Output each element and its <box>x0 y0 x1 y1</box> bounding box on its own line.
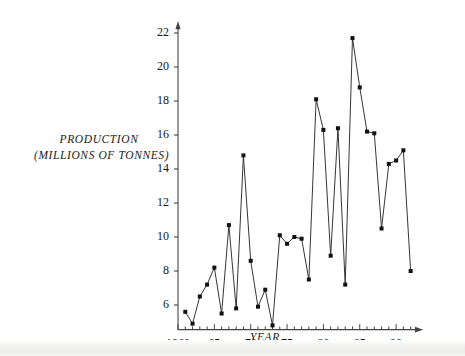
data-point-marker <box>394 159 398 163</box>
data-point-marker <box>314 97 318 101</box>
data-point-marker <box>350 36 354 40</box>
chart-figure: PRODUCTION (MILLIONS OF TONNES) YEAR 681… <box>0 0 465 356</box>
y-axis-arrow-icon <box>175 21 180 29</box>
y-axis-tick-label: 22 <box>144 25 169 40</box>
data-point-marker <box>271 323 275 327</box>
x-axis-tick-label: 90 <box>374 336 418 351</box>
data-point-marker <box>358 85 362 89</box>
data-point-marker <box>212 266 216 270</box>
data-point-marker <box>409 269 413 273</box>
data-point-marker <box>241 153 245 157</box>
y-axis-tick-label: 12 <box>144 195 169 210</box>
data-point-marker <box>300 237 304 241</box>
y-axis-tick-label: 10 <box>144 229 169 244</box>
data-point-marker <box>365 130 369 134</box>
y-axis-tick-label: 20 <box>144 59 169 74</box>
data-point-marker <box>278 233 282 237</box>
data-point-marker <box>401 148 405 152</box>
data-point-marker <box>191 322 195 326</box>
data-point-marker <box>249 259 253 263</box>
y-axis-tick-label: 8 <box>144 263 169 278</box>
data-point-marker <box>285 242 289 246</box>
y-axis-tick-label: 6 <box>144 297 169 312</box>
data-point-marker <box>256 305 260 309</box>
data-point-marker <box>380 227 384 231</box>
data-point-marker <box>292 235 296 239</box>
data-point-marker <box>227 223 231 227</box>
data-point-marker <box>263 288 267 292</box>
data-point-marker <box>205 283 209 287</box>
data-series-line <box>185 38 410 325</box>
y-axis-tick-label: 16 <box>144 127 169 142</box>
y-axis-tick-label: 18 <box>144 93 169 108</box>
data-point-marker <box>387 162 391 166</box>
y-axis-tick-label: 14 <box>144 161 169 176</box>
data-point-marker <box>183 310 187 314</box>
chart-plot-area <box>0 0 465 356</box>
data-point-marker <box>321 128 325 132</box>
data-point-marker <box>372 131 376 135</box>
data-point-marker <box>220 312 224 316</box>
data-point-marker <box>307 278 311 282</box>
data-point-marker <box>343 283 347 287</box>
data-point-marker <box>336 126 340 130</box>
x-axis-arrow-icon <box>415 327 423 333</box>
data-point-marker <box>198 295 202 299</box>
data-point-marker <box>329 254 333 258</box>
data-point-marker <box>234 306 238 310</box>
